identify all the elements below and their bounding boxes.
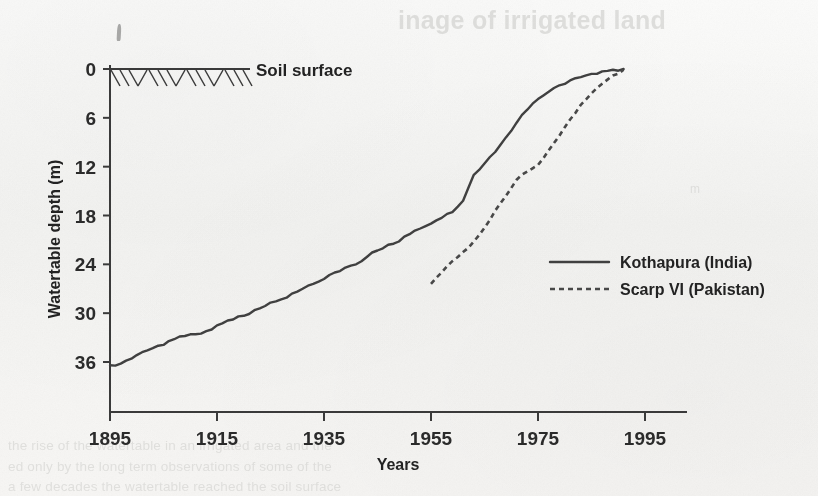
chart-legend: Kothapura (India) Scarp VI (Pakistan) <box>550 254 765 298</box>
soil-surface-group <box>110 69 252 86</box>
y-tick-label: 12 <box>75 157 96 178</box>
x-tick-label: 1935 <box>303 428 346 449</box>
watertable-depth-chart: 061218243036 189519151935195519751995 Wa… <box>0 0 818 496</box>
x-axis-title: Years <box>377 456 420 473</box>
y-tick-label: 30 <box>75 303 96 324</box>
y-tick-label: 6 <box>85 108 96 129</box>
x-tick-label: 1955 <box>410 428 453 449</box>
y-tick-label: 0 <box>85 59 96 80</box>
y-tick-label: 18 <box>75 206 96 227</box>
soil-surface-label: Soil surface <box>256 61 352 80</box>
y-axis-title: Watertable depth (m) <box>46 160 63 319</box>
axes-group <box>110 66 686 412</box>
series-group <box>110 69 624 366</box>
y-tick-label: 36 <box>75 352 96 373</box>
x-axis-tick-labels: 189519151935195519751995 <box>89 428 667 449</box>
x-tick-label: 1915 <box>196 428 239 449</box>
y-axis-ticks <box>103 69 110 362</box>
figure-page: inage of irrigated land the rise of the … <box>0 0 818 496</box>
x-tick-label: 1895 <box>89 428 132 449</box>
x-tick-label: 1975 <box>517 428 560 449</box>
soil-hatch-strokes <box>111 70 252 86</box>
soil-hatch-pattern <box>111 70 252 86</box>
x-tick-label: 1995 <box>624 428 667 449</box>
y-axis-tick-labels: 061218243036 <box>75 59 97 373</box>
x-axis-ticks <box>110 412 645 421</box>
series-line-scarp-vi <box>431 70 624 284</box>
legend-label-scarp-vi: Scarp VI (Pakistan) <box>620 281 765 298</box>
y-tick-label: 24 <box>75 254 97 275</box>
series-line-kothapura <box>110 69 624 366</box>
legend-label-kothapura: Kothapura (India) <box>620 254 752 271</box>
